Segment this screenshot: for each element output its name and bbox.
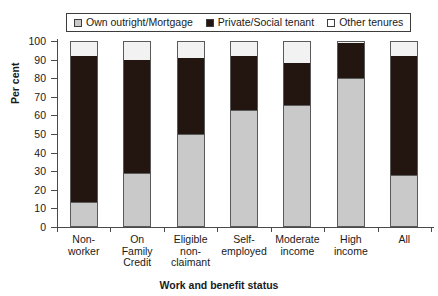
y-axis-tick-label: 10	[0, 203, 46, 213]
x-axis-category-label: All	[378, 234, 431, 246]
x-axis-category-label: Highincome	[324, 234, 377, 257]
bar-segment	[70, 41, 98, 56]
x-axis-tick	[431, 227, 432, 232]
x-axis-category-label-line: Credit	[110, 257, 163, 269]
bar-segment	[177, 134, 205, 227]
legend-label-own-outright-mortgage: Own outright/Mortgage	[86, 17, 193, 28]
legend-label-private-social-tenant: Private/Social tenant	[218, 17, 314, 28]
bar-non-worker	[70, 41, 98, 227]
y-axis-title: Per cent	[9, 63, 21, 104]
legend-entry-private-social-tenant: Private/Social tenant	[206, 17, 314, 28]
legend-entry-own-outright-mortgage: Own outright/Mortgage	[74, 17, 193, 28]
x-axis-category-label-line: Eligible	[164, 234, 217, 246]
x-axis-category-label-line: income	[271, 246, 324, 258]
bar-high-income	[337, 41, 365, 227]
y-axis-tick-label: 0	[0, 222, 46, 232]
bar-segment	[337, 41, 365, 43]
bar-segment	[337, 78, 365, 227]
bar-segment	[230, 56, 258, 110]
bar-segment	[123, 41, 151, 60]
x-axis-category-label-line: Moderate	[271, 234, 324, 246]
x-axis-tick	[378, 227, 379, 232]
x-axis-title: Work and benefit status	[0, 279, 438, 291]
x-axis-tick	[57, 227, 58, 232]
bar-eligible-non-claimant	[177, 41, 205, 227]
bar-all	[390, 41, 418, 227]
x-axis-category-label-line: All	[378, 234, 431, 246]
bar-segment	[70, 202, 98, 227]
y-axis-tick-label: 50	[0, 129, 46, 139]
y-axis-tick-label: 70	[0, 92, 46, 102]
legend-label-other-tenures: Other tenures	[339, 17, 403, 28]
bar-segment	[390, 41, 418, 56]
x-axis-tick	[324, 227, 325, 232]
y-axis-tick-label: 20	[0, 185, 46, 195]
x-axis-category-label-line: Self-	[217, 234, 270, 246]
y-axis-tick-label: 100	[0, 36, 46, 46]
bar-segment	[230, 110, 258, 227]
bar-moderate-income	[283, 41, 311, 227]
x-axis-tick	[110, 227, 111, 232]
y-axis-tick-label: 90	[0, 55, 46, 65]
bar-segment	[337, 43, 365, 78]
bar-segment	[230, 41, 258, 56]
x-axis-category-label-line: employed	[217, 246, 270, 258]
x-axis-line	[51, 227, 434, 228]
chart-legend: Own outright/Mortgage Private/Social ten…	[66, 13, 411, 32]
legend-entry-other-tenures: Other tenures	[327, 17, 403, 28]
bar-segment	[177, 41, 205, 58]
x-axis-category-label-line: income	[324, 246, 377, 258]
x-axis-category-label: Non-worker	[57, 234, 110, 257]
legend-swatch-own-outright-mortgage	[74, 19, 82, 27]
x-axis-tick	[271, 227, 272, 232]
bar-segment	[283, 41, 311, 63]
bar-segment	[123, 173, 151, 227]
x-axis-category-label-line: On	[110, 234, 163, 246]
x-axis-tick	[164, 227, 165, 232]
x-axis-category-label-line: High	[324, 234, 377, 246]
bar-self-employed	[230, 41, 258, 227]
y-axis-tick-label: 30	[0, 166, 46, 176]
bar-segment	[177, 58, 205, 134]
bar-segment	[70, 56, 98, 202]
bar-segment	[390, 175, 418, 227]
bar-segment	[283, 63, 311, 105]
bar-segment	[390, 56, 418, 175]
y-axis-tick-label: 80	[0, 73, 46, 83]
x-axis-category-label: Moderateincome	[271, 234, 324, 257]
stacked-bar-chart: Own outright/Mortgage Private/Social ten…	[0, 0, 438, 296]
x-axis-category-label-line: claimant	[164, 257, 217, 269]
bar-segment	[283, 105, 311, 227]
plot-area	[57, 41, 431, 227]
x-axis-category-label: Eligiblenon-claimant	[164, 234, 217, 269]
x-axis-category-label: OnFamilyCredit	[110, 234, 163, 269]
x-axis-category-label-line: Non-worker	[57, 234, 110, 257]
x-axis-category-label: Self-employed	[217, 234, 270, 257]
legend-swatch-private-social-tenant	[206, 19, 214, 27]
legend-swatch-other-tenures	[327, 19, 335, 27]
bar-on-family-credit	[123, 41, 151, 227]
x-axis-tick	[217, 227, 218, 232]
bar-segment	[123, 60, 151, 173]
y-axis-tick-label: 40	[0, 148, 46, 158]
y-axis-tick-label: 60	[0, 110, 46, 120]
